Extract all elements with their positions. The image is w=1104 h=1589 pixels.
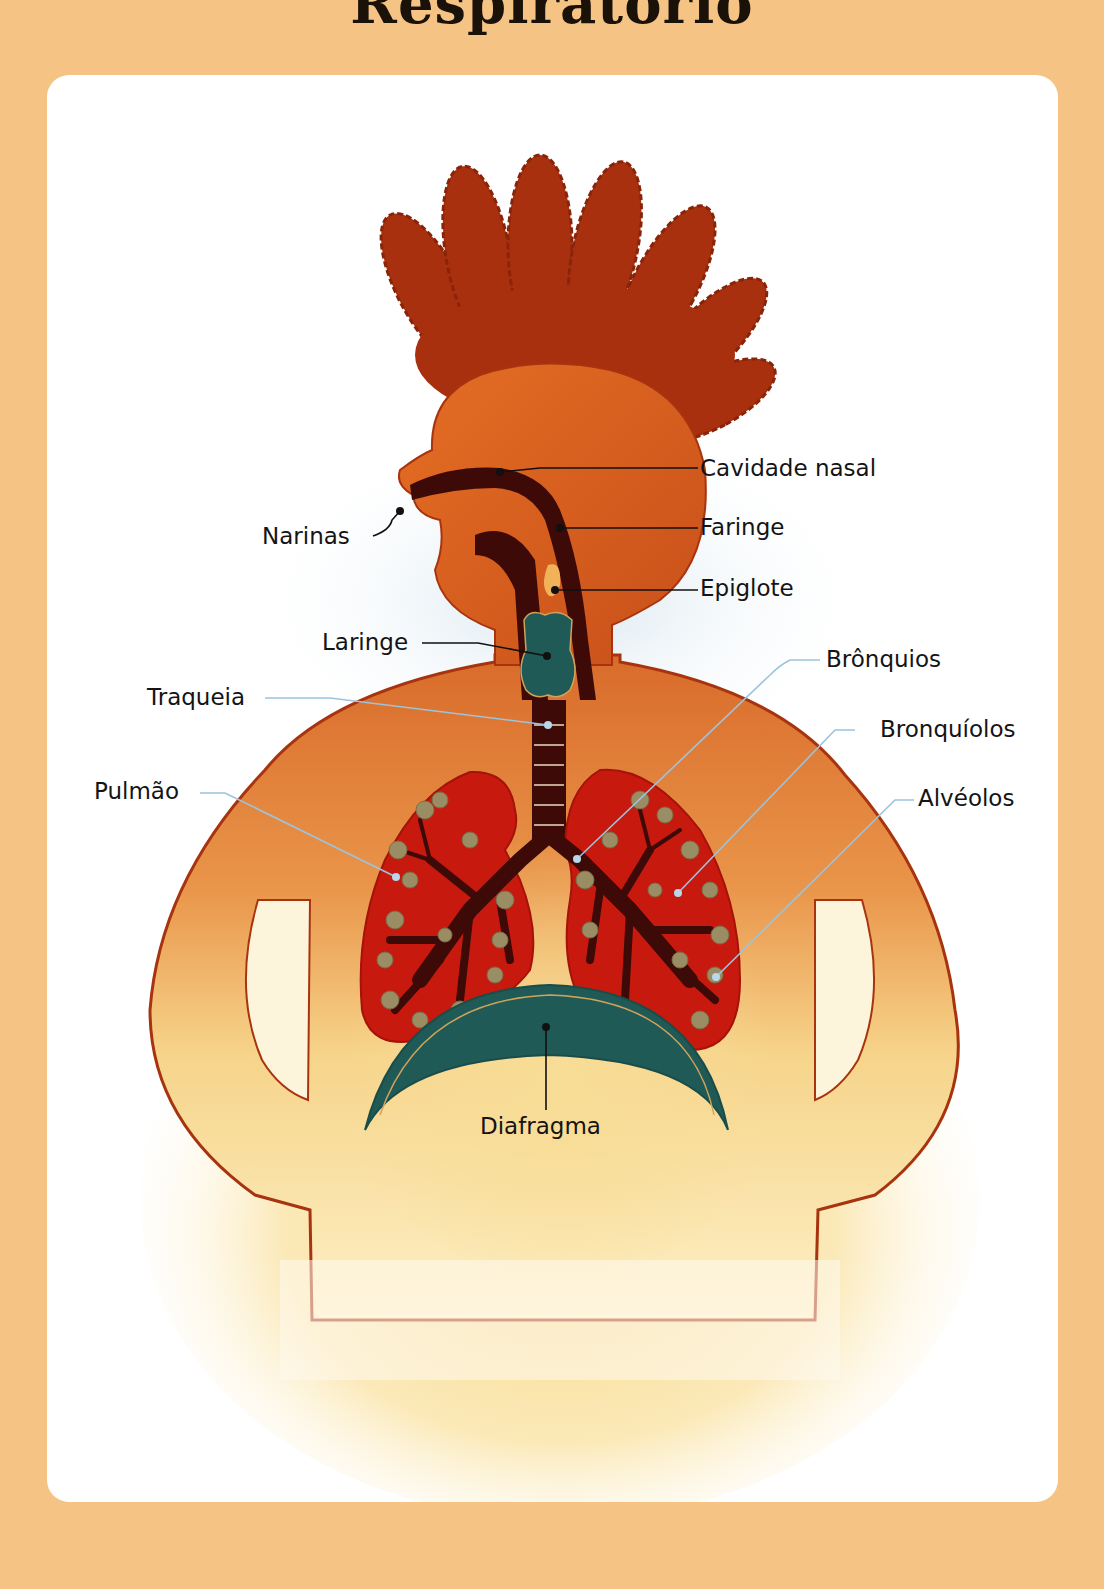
diagram-card: Cavidade nasal Narinas Faringe Epiglote …	[47, 75, 1058, 1502]
label-epiglote: Epiglote	[700, 577, 794, 600]
label-traqueia: Traqueia	[147, 686, 245, 709]
label-faringe: Faringe	[700, 516, 784, 539]
label-cavidade-nasal: Cavidade nasal	[700, 457, 876, 480]
label-bronquiolos: Bronquíolos	[880, 718, 1015, 741]
respiratory-illustration	[47, 75, 1058, 1502]
label-pulmao: Pulmão	[94, 780, 179, 803]
trachea	[532, 700, 566, 840]
label-diafragma: Diafragma	[480, 1115, 601, 1138]
page-title: Respiratório	[0, 0, 1104, 36]
label-bronquios: Brônquios	[826, 648, 941, 671]
label-narinas: Narinas	[262, 525, 350, 548]
label-laringe: Laringe	[322, 631, 408, 654]
label-alveolos: Alvéolos	[918, 787, 1014, 810]
